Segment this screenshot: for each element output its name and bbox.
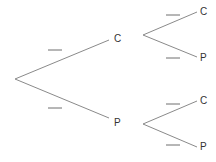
branch-root-to-C <box>15 40 109 79</box>
probability-tree-diagram: C P C P C P <box>0 0 216 162</box>
node-label-level1-P: P <box>114 117 121 128</box>
branch-C-to-P <box>143 35 197 57</box>
node-label-P-P: P <box>200 141 207 152</box>
node-label-P-C: C <box>200 95 207 106</box>
branch-root-to-P <box>15 79 109 118</box>
node-label-C-P: P <box>200 52 207 63</box>
level1-branches: C P <box>15 33 121 128</box>
node-label-level1-C: C <box>114 33 121 44</box>
level2-branches-after-C: C P <box>143 6 207 63</box>
node-label-C-C: C <box>200 6 207 17</box>
branch-P-to-P <box>143 124 197 147</box>
level2-branches-after-P: C P <box>143 95 207 152</box>
